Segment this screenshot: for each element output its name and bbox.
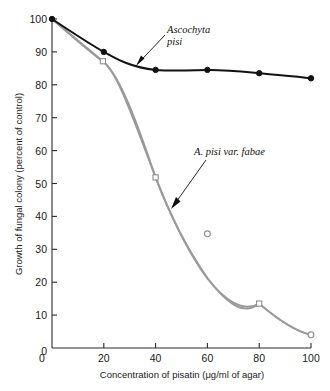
y-tick-label-30: 30	[35, 243, 47, 255]
data-point-pisi-40	[153, 67, 158, 72]
x-axis-title: Concentration of pisatin (μg/ml of agar)	[100, 369, 264, 380]
data-point-fabae-20	[100, 59, 105, 64]
y-tick-label-90: 90	[35, 46, 47, 58]
y-tick-label-50: 50	[35, 178, 47, 190]
annotation-label-pisi-line1: Ascochyta	[166, 24, 210, 35]
data-point-fabae-100	[308, 332, 314, 338]
y-axis-title: Growth of fungal colony (percent of cont…	[13, 93, 24, 275]
y-tick-label-40: 40	[35, 210, 47, 222]
x-tick-label-60: 60	[202, 352, 214, 364]
data-point-fabae-80	[257, 301, 262, 306]
data-point-fabae-60	[205, 231, 211, 237]
x-tick-label-100: 100	[302, 352, 320, 364]
y-tick-label-100: 100	[29, 13, 47, 25]
y-tick-label-80: 80	[35, 79, 47, 91]
annotation-label-fabae: A. pisi var. fabae	[193, 146, 265, 157]
x-tick-label-20: 20	[98, 352, 110, 364]
chart-background	[0, 0, 330, 391]
data-point-pisi-20	[101, 49, 106, 54]
y-tick-label-60: 60	[35, 145, 47, 157]
data-point-pisi-0	[49, 16, 54, 21]
x-tick-label-40: 40	[150, 352, 162, 364]
x-tick-label-0: 0	[39, 352, 45, 364]
annotation-label-pisi-line2: pisi	[166, 36, 182, 47]
data-point-pisi-100	[308, 76, 313, 81]
chart-figure: 100 90 80 70 60 50 40 30 20 10 0 0 20 40…	[0, 0, 330, 391]
data-point-pisi-80	[257, 71, 262, 76]
x-tick-label-80: 80	[253, 352, 265, 364]
y-tick-label-70: 70	[35, 112, 47, 124]
data-point-pisi-60	[205, 67, 210, 72]
data-point-fabae-40	[153, 175, 158, 180]
growth-vs-pisatin-chart: 100 90 80 70 60 50 40 30 20 10 0 0 20 40…	[0, 0, 330, 391]
y-tick-label-20: 20	[35, 276, 47, 288]
y-tick-label-10: 10	[35, 309, 47, 321]
